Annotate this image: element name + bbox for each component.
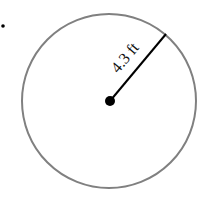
- radius-label: 4.3 ft: [107, 39, 142, 76]
- circle-diagram: 4.3 ft: [0, 0, 197, 207]
- problem-bullet: [1, 24, 5, 28]
- center-point: [105, 96, 115, 106]
